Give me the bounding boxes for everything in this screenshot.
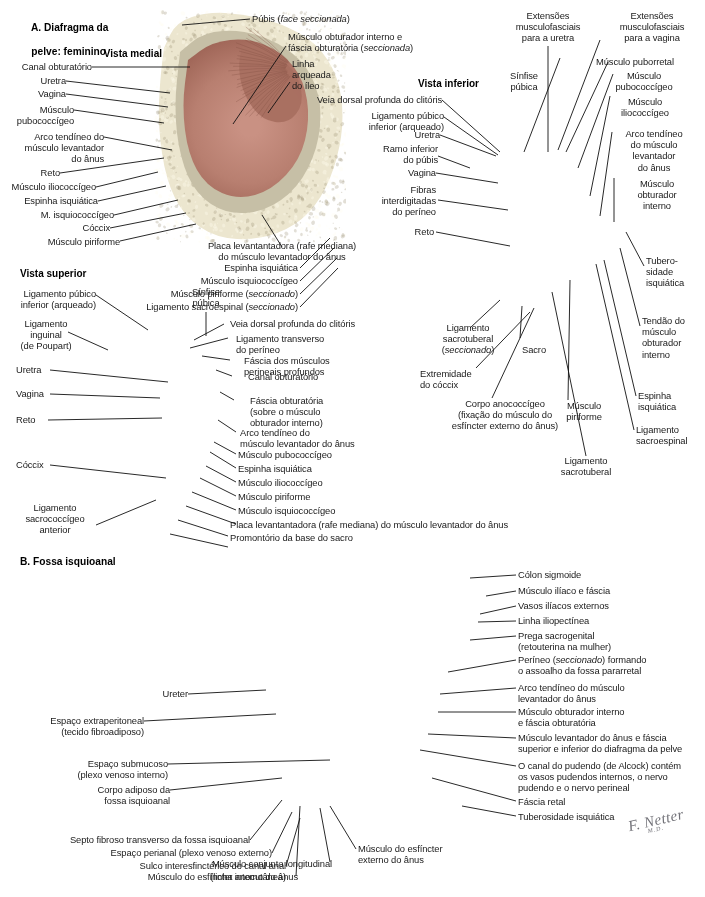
label-musculo-iliaco-fascia: Músculo ilíaco e fáscia [518, 585, 610, 596]
label-pubis-face-seccionada: Púbis (face seccionada) [252, 13, 350, 24]
label-placa-levantantadora-superior: Placa levantantadora (rafe mediana) do m… [230, 519, 508, 530]
label-musculo-obturador-interno-fascia: Músculo obturador interno efáscia obtura… [288, 31, 413, 53]
view-label-inferior: Vista inferior [418, 78, 479, 90]
label-uretra-superior: Uretra [16, 364, 41, 375]
label-ligamento-sacrotuberal-inferior: Ligamentosacrotuberal [540, 455, 632, 477]
artist-signature: F. Netter M.D. [626, 806, 686, 838]
view-label-medial: Vista medial [22, 48, 162, 60]
label-musculo-piriforme-superior: Músculo piriforme [238, 491, 310, 502]
label-ligamento-transverso-perineo: Ligamento transversodo períneo [236, 333, 324, 355]
label-ligamento-sacroespinal-inferior: Ligamentosacroespinal [636, 424, 687, 446]
label-espaco-extraperitoneal: Espaço extraperitoneal(tecido fibroadipo… [10, 715, 144, 737]
label-musculo-puborretal: Músculo puborretal [596, 56, 674, 67]
label-tuberosidade-isquiatica-inferior: Tubero-sidadeisquiática [646, 255, 684, 289]
atlas-page: A. Diafragma da pelve: feminino Vista me… [0, 0, 705, 897]
label-arco-tendineo-medial: Arco tendíneo domúsculo levantadordo ânu… [0, 131, 104, 165]
label-musculo-isquiococcigeo-bottom: Músculo isquiococcígeo [152, 275, 298, 286]
label-coccix-superior: Cóccix [16, 459, 44, 470]
label-musculo-iliococcigeo-inferior: Músculoiliococcígeo [600, 96, 690, 118]
label-septo-fibroso-transverso: Septo fibroso transverso da fossa isquio… [20, 834, 250, 845]
label-promontorio-base-sacro: Promontório da base do sacro [230, 532, 353, 543]
label-musculo-obturador-interno-figb: Músculo obturador internoe fáscia obtura… [518, 706, 624, 728]
figure-b-ischioanal-fossa-illustration [200, 560, 500, 838]
label-coccix-medial: Cóccix [0, 222, 110, 233]
label-linha-iliopectinea: Linha iliopectínea [518, 615, 589, 626]
label-musculo-isquiococcigeo-superior: Músculo isquiococcígeo [238, 505, 335, 516]
label-vasos-iliacos-externos: Vasos ilíacos externos [518, 600, 609, 611]
label-espaco-perianal: Espaço perianal (plexo venoso externo) [60, 847, 272, 858]
label-espinha-isquiatica-superior: Espinha isquiática [238, 463, 312, 474]
label-ligamento-pubico-inferior-superior: Ligamento púbicoinferior (arqueado) [0, 288, 96, 310]
label-uretra-inferior: Uretra [364, 129, 440, 140]
label-canal-obturatorio-medial: Canal obturatório [0, 61, 92, 72]
label-ureter: Ureter [90, 688, 188, 699]
label-extremidade-do-coccix: Extremidadedo cóccix [420, 368, 472, 390]
label-m-isquiococcigeo-medial: M. isquiococcígeo [0, 209, 114, 220]
label-sacro: Sacro [522, 344, 546, 355]
label-musculo-conjunto-longitudinal: Músculo conjunto longitudinal [160, 858, 332, 869]
label-musculo-levantador-anus-fascia: Músculo levantador do ânus e fásciasuper… [518, 732, 682, 754]
label-fascia-obturatoria-superior: Fáscia obturatória(sobre o músculoobtura… [250, 395, 323, 429]
label-musculo-pubococcigeo-medial: Músculopubococcígeo [0, 104, 74, 126]
label-musculo-pubococcigeo-inferior: Músculopubococcígeo [596, 70, 692, 92]
section-b-title: B. Fossa isquioanal [20, 556, 116, 568]
label-colon-sigmoide: Cólon sigmoide [518, 569, 581, 580]
label-ligamento-sacrococcigeo-anterior: Ligamentosacrococcígeoanterior [12, 502, 98, 536]
label-placa-levantantadora-medial: Placa levantantadora (rafe mediana)do mú… [196, 240, 368, 262]
label-musculo-pubococcigeo-superior: Músculo pubococcígeo [238, 449, 332, 460]
label-extensoes-musculofasciais-vagina: Extensõesmusculofasciaispara a vagina [600, 10, 704, 44]
label-sinfise-pubica-superior: Sínfisepúbica [182, 286, 230, 308]
section-a-title-line1: A. Diafragma da [31, 22, 109, 33]
label-vagina-superior: Vagina [16, 388, 44, 399]
label-espinha-isquiatica-medial: Espinha isquiática [0, 195, 98, 206]
label-perineo-seccionado-assoalho: Períneo (seccionado) formandoo assoalho … [518, 654, 646, 676]
label-musculo-obturador-interno-inferior: Músculoobturadorinterno [616, 178, 698, 212]
label-musculo-esfincter-externo-anus: Músculo do esfíncterexterno do ânus [358, 843, 443, 865]
label-musculo-piriforme-medial: Músculo piriforme [0, 236, 120, 247]
label-ligamento-sacrotuberal-seccionado: Ligamentosacrotuberal(seccionado) [422, 322, 514, 356]
label-reto-medial: Reto [0, 167, 60, 178]
label-arco-tendineo-superior: Arco tendíneo domúsculo levantador do ân… [240, 427, 355, 449]
label-musculo-iliococcigeo-medial: Músculo iliococcígeo [0, 181, 96, 192]
label-vagina-medial: Vagina [0, 88, 66, 99]
label-reto-inferior: Reto [376, 226, 434, 237]
label-tuberosidade-isquiatica-figb: Tuberosidade isquiática [518, 811, 614, 822]
label-veia-dorsal-profunda-clitoris-inferior: Veia dorsal profunda do clitóris [300, 94, 442, 105]
label-fibras-interdigitadas-perineo: Fibrasinterdigitadasdo períneo [340, 184, 436, 218]
label-arco-tendineo-figb: Arco tendíneo do músculolevantador do ân… [518, 682, 625, 704]
label-espaco-submucoso: Espaço submucoso(plexo venoso interno) [24, 758, 168, 780]
label-musculo-iliococcigeo-superior: Músculo iliococcígeo [238, 477, 323, 488]
label-ramo-inferior-do-pubis: Ramo inferiordo púbis [340, 143, 438, 165]
label-linha-arqueada-do-ileo: Linhaarqueadado íleo [292, 58, 331, 92]
view-label-superior: Vista superior [20, 268, 87, 280]
label-vagina-inferior: Vagina [366, 167, 436, 178]
label-musculo-esfincter-interno-anus: Músculo do esfíncter interno do ânus [120, 871, 298, 882]
label-extensoes-musculofasciais-uretra: Extensõesmusculofasciaispara a uretra [498, 10, 598, 44]
label-musculo-piriforme-inferior: Músculopiriforme [550, 400, 618, 422]
label-arco-tendineo-inferior: Arco tendíneodo músculolevantadordo ânus [608, 128, 700, 173]
label-espinha-isquiatica-inferior: Espinhaisquiática [638, 390, 676, 412]
label-ligamento-inguinal-poupart: Ligamentoinguinal(de Poupart) [6, 318, 86, 352]
label-tendao-musculo-obturador-interno: Tendão domúsculoobturadorinterno [642, 315, 685, 360]
label-veia-dorsal-profunda-clitoris-superior: Veia dorsal profunda do clitóris [230, 318, 355, 329]
label-canal-obturatorio-superior: Canal obturatório [248, 371, 318, 382]
label-corpo-adiposo-fossa-isquioanal: Corpo adiposo dafossa isquioanal [32, 784, 170, 806]
label-canal-pudendo-alcock: O canal do pudendo (de Alcock) contémos … [518, 760, 681, 794]
label-prega-sacrogenital: Prega sacrogenital(retouterina na mulher… [518, 630, 611, 652]
label-espinha-isquiatica-bottom: Espinha isquiática [170, 262, 298, 273]
label-reto-superior: Reto [16, 414, 35, 425]
label-uretra-medial: Uretra [0, 75, 66, 86]
label-fascia-retal: Fáscia retal [518, 796, 565, 807]
label-sinfise-pubica-inferior: Sínfisepúbica [500, 70, 548, 92]
